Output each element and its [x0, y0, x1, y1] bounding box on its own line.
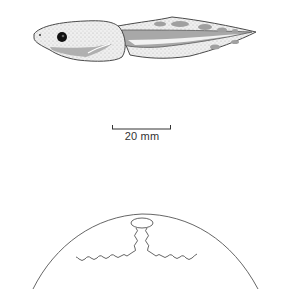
scale-bar: [112, 125, 171, 129]
tadpole-eye-icon: [57, 32, 67, 42]
central-oval: [131, 218, 153, 228]
illustration-figure: 20 mm: [0, 0, 282, 298]
tadpole-illustration: [0, 0, 282, 298]
dome-outline: [33, 214, 258, 289]
tadpole-nostril: [39, 34, 41, 36]
scale-bar-label: 20 mm: [112, 130, 172, 142]
left-wavy-strand: [76, 228, 138, 261]
right-wavy-strand: [146, 228, 198, 260]
